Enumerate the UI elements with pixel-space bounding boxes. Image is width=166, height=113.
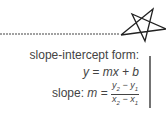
slope-formula: slope: m = y2 − y1 x2 − x1 (52, 81, 139, 108)
fraction-denominator: x2 − x1 (111, 95, 139, 108)
slope-equals: = (97, 86, 111, 100)
slope-fraction: y2 − y1 x2 − x1 (111, 81, 139, 108)
slope-variable: m (87, 86, 97, 100)
slope-label: slope: (52, 86, 87, 100)
star-icon (121, 9, 166, 41)
slope-intercept-title: slope-intercept form: (30, 48, 139, 62)
slope-intercept-formula: y = mx + b (83, 65, 139, 79)
fraction-numerator: y2 − y1 (111, 81, 139, 95)
